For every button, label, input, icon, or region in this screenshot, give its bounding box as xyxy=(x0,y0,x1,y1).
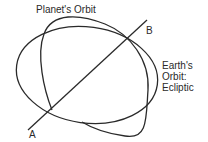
earth-orbit-label-line2: Orbit: xyxy=(162,71,194,82)
point-b-label: B xyxy=(146,25,153,36)
orbit-diagram: Planet's Orbit B A Earth's Orbit: Eclipt… xyxy=(0,0,208,142)
earth-orbit-label-line3: Ecliptic xyxy=(162,82,194,93)
earth-orbit-label-line1: Earth's xyxy=(162,60,194,71)
planet-orbit-ellipse xyxy=(41,17,148,137)
line-of-nodes xyxy=(28,20,147,130)
point-a-label: A xyxy=(29,129,36,140)
earth-orbit-label: Earth's Orbit: Ecliptic xyxy=(162,60,194,93)
planet-orbit-label: Planet's Orbit xyxy=(36,4,96,15)
